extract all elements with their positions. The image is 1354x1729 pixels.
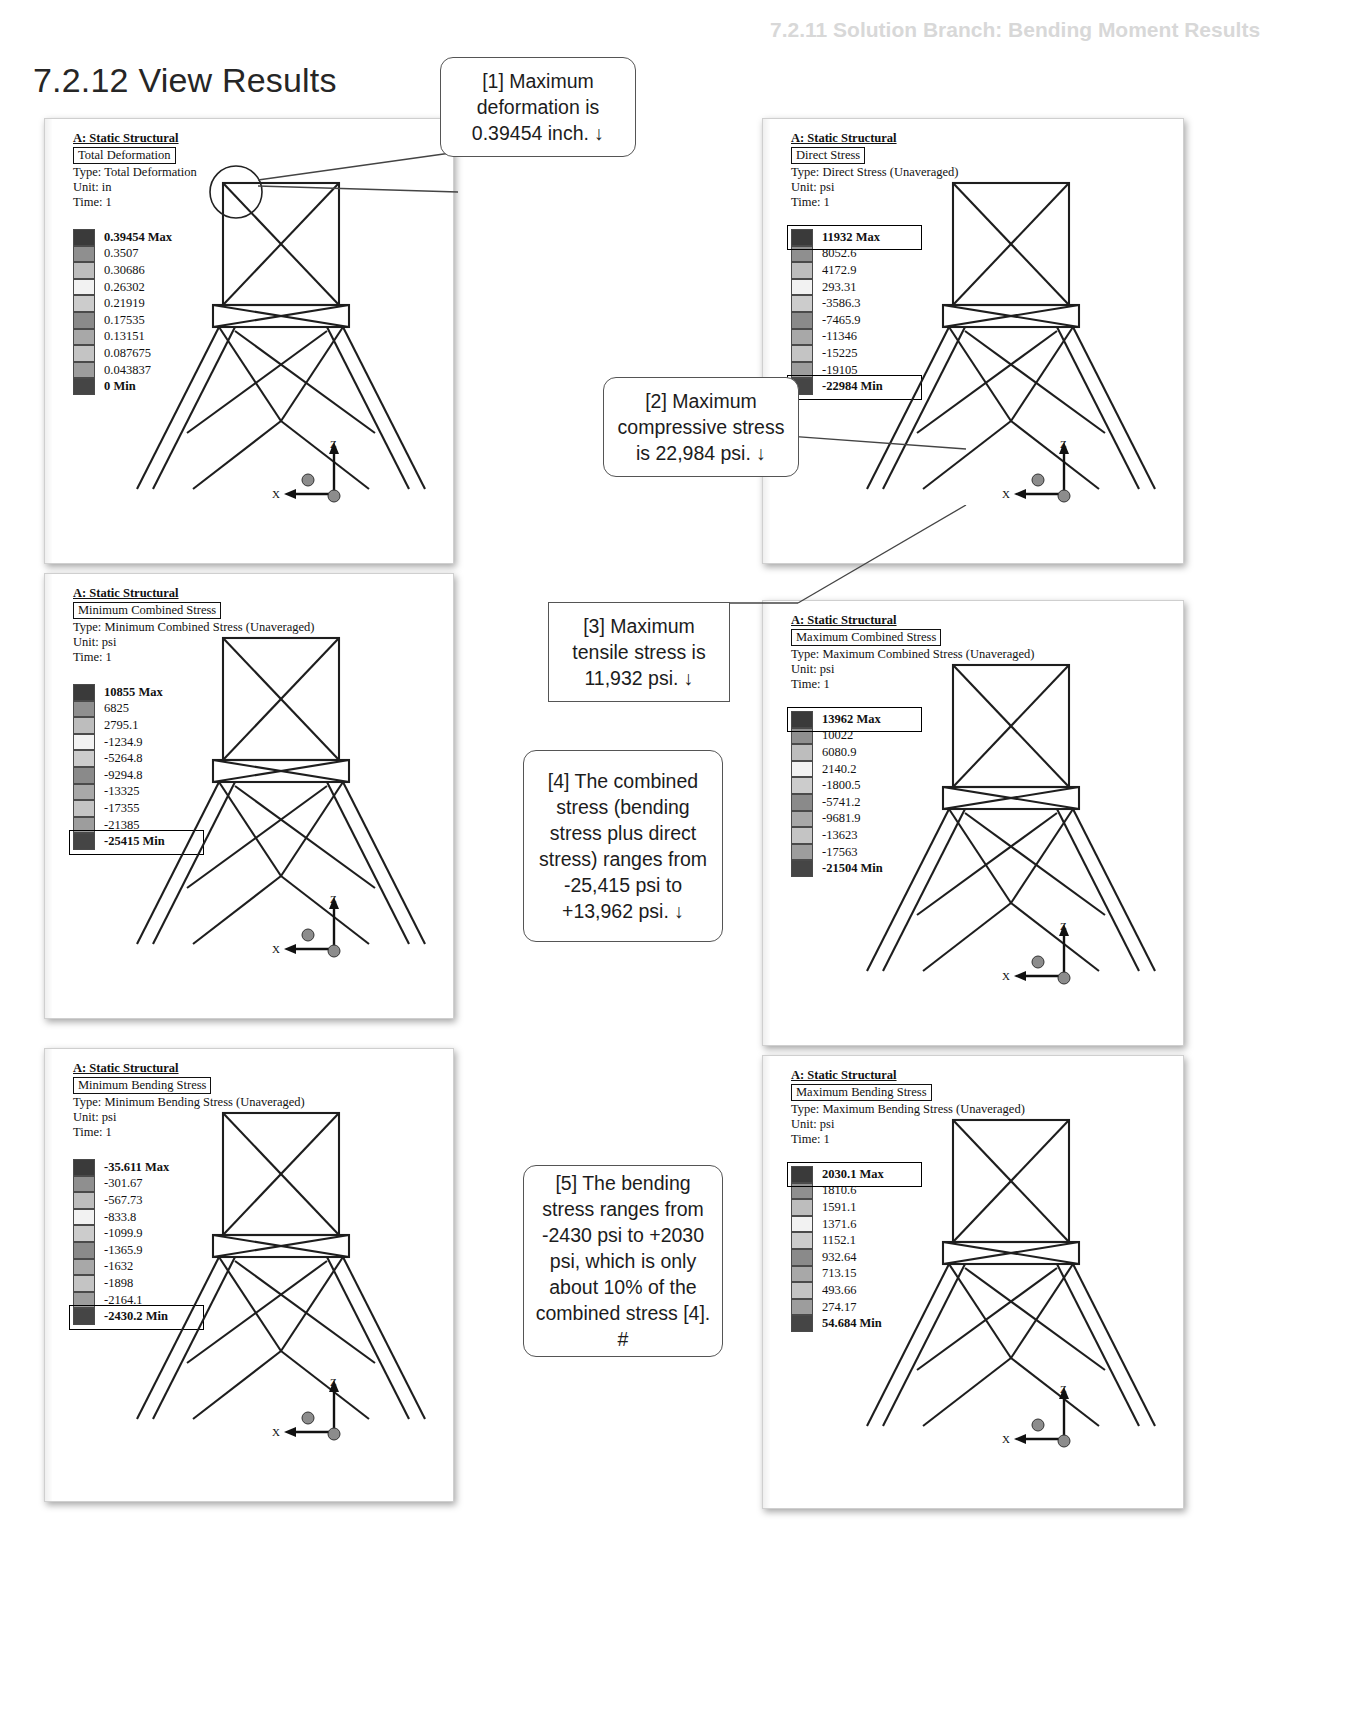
legend-label: 1810.6 [822, 1183, 856, 1198]
legend-swatch [791, 295, 813, 312]
legend-swatch [73, 784, 95, 801]
svg-text:X: X [1002, 488, 1010, 500]
svg-text:X: X [1002, 1433, 1010, 1445]
legend-swatch [791, 711, 813, 728]
legend-swatch [73, 329, 95, 346]
legend-label: -1898 [104, 1276, 133, 1291]
leader-line-callout-3 [718, 505, 968, 615]
legend-swatch [791, 1183, 813, 1200]
legend-swatch [791, 1232, 813, 1249]
legend-label: -1632 [104, 1259, 133, 1274]
analysis-name: A: Static Structural [791, 131, 958, 146]
panel-minimum-combined-stress: A: Static StructuralMinimum Combined Str… [44, 573, 454, 1019]
legend-swatch [73, 750, 95, 767]
legend-swatch [791, 860, 813, 877]
legend-label: 1371.6 [822, 1217, 856, 1232]
legend-label: 293.31 [822, 280, 856, 295]
legend-swatch [791, 844, 813, 861]
legend-label: 932.64 [822, 1250, 856, 1265]
legend-swatch [791, 744, 813, 761]
svg-text:Z: Z [330, 893, 337, 905]
legend-swatch [791, 761, 813, 778]
panel-maximum-bending-stress: A: Static StructuralMaximum Bending Stre… [762, 1055, 1184, 1509]
svg-text:X: X [272, 943, 280, 955]
legend-swatch [73, 279, 95, 296]
legend-swatch [73, 1242, 95, 1259]
legend-swatch [791, 1282, 813, 1299]
legend-swatch [791, 229, 813, 246]
legend-swatch [73, 1209, 95, 1226]
legend-swatch [791, 794, 813, 811]
legend-swatch [73, 1292, 95, 1309]
result-name: Total Deformation [73, 147, 176, 164]
legend-swatch [791, 1216, 813, 1233]
analysis-name: A: Static Structural [73, 1061, 305, 1076]
legend-swatch [791, 1299, 813, 1316]
svg-text:X: X [1002, 970, 1010, 982]
legend-label: 8052.6 [822, 246, 856, 261]
facing-page-ghost-header: 7.2.11 Solution Branch: Bending Moment R… [770, 18, 1290, 44]
legend-label: -19105 [822, 363, 857, 378]
svg-text:Z: Z [1060, 438, 1067, 450]
svg-text:Z: Z [1060, 920, 1067, 932]
legend-label: 2140.2 [822, 762, 856, 777]
svg-text:X: X [272, 1426, 280, 1438]
legend-swatch [73, 229, 95, 246]
legend-swatch [73, 1192, 95, 1209]
legend-label: -1800.5 [822, 778, 861, 793]
svg-text:Z: Z [1060, 1383, 1067, 1395]
panel-minimum-bending-stress: A: Static StructuralMinimum Bending Stre… [44, 1048, 454, 1502]
legend-label: 274.17 [822, 1300, 856, 1315]
legend-swatch [791, 811, 813, 828]
legend-label: -3586.3 [822, 296, 861, 311]
legend-label: 1152.1 [822, 1233, 856, 1248]
legend-label: 6825 [104, 701, 129, 716]
coordinate-triad: Z X [268, 893, 354, 971]
analysis-name: A: Static Structural [73, 131, 197, 146]
legend-swatch [791, 1315, 813, 1332]
callout-1: [1] Maximum deformation is 0.39454 inch.… [440, 57, 636, 157]
coordinate-triad: Z X [998, 1383, 1084, 1461]
result-name: Direct Stress [791, 147, 865, 164]
legend-swatch [791, 329, 813, 346]
legend-swatch [791, 279, 813, 296]
legend-swatch [73, 800, 95, 817]
legend-label: 10022 [822, 728, 853, 743]
legend-swatch [791, 1249, 813, 1266]
coordinate-triad: Z X [998, 438, 1084, 516]
legend-swatch [791, 777, 813, 794]
analysis-name: A: Static Structural [791, 613, 1035, 628]
legend-label: 6080.9 [822, 745, 856, 760]
legend-swatch [791, 827, 813, 844]
coordinate-triad: Z X [268, 438, 354, 516]
legend-swatch [73, 262, 95, 279]
legend-swatch [791, 1166, 813, 1183]
legend-swatch [73, 295, 95, 312]
legend-label: -17563 [822, 845, 857, 860]
legend-swatch [73, 767, 95, 784]
legend-swatch [73, 345, 95, 362]
coordinate-triad: Z X [268, 1376, 354, 1454]
legend-swatch [791, 1266, 813, 1283]
legend-label: 4172.9 [822, 263, 856, 278]
svg-text:X: X [272, 488, 280, 500]
legend-swatch [791, 262, 813, 279]
result-name: Minimum Combined Stress [73, 602, 221, 619]
callout-4: [4] The combined stress (bending stress … [523, 750, 723, 942]
analysis-name: A: Static Structural [791, 1068, 1025, 1083]
panel-direct-stress: A: Static StructuralDirect StressType: D… [762, 118, 1184, 564]
legend-swatch [73, 1225, 95, 1242]
legend-swatch [73, 378, 95, 395]
callout-2: [2] Maximum compressive stress is 22,984… [603, 377, 799, 477]
svg-text:Z: Z [330, 438, 337, 450]
legend-label: -9681.9 [822, 811, 861, 826]
legend-swatch [791, 246, 813, 263]
legend-swatch [73, 817, 95, 834]
result-name: Maximum Combined Stress [791, 629, 941, 646]
legend-label: 1591.1 [822, 1200, 856, 1215]
leader-line-callout-1 [200, 150, 460, 230]
legend-swatch [73, 1259, 95, 1276]
coordinate-triad: Z X [998, 920, 1084, 998]
svg-text:Z: Z [330, 1376, 337, 1388]
legend-swatch [73, 1308, 95, 1325]
